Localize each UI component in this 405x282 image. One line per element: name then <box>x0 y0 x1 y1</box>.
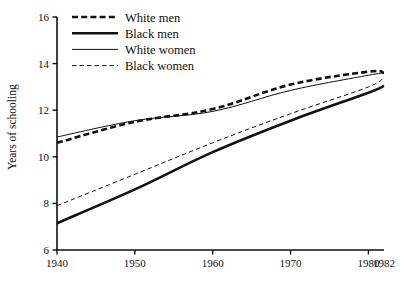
chart-container: 6810121416 194019501960197019801982 Whit… <box>0 0 405 282</box>
y-axis-tick-label: 16 <box>38 11 50 23</box>
x-axis: 194019501960197019801982 <box>46 250 395 269</box>
y-axis-tick-label: 6 <box>44 244 50 256</box>
x-axis-tick-label: 1970 <box>280 257 303 269</box>
legend-label-black-women: Black women <box>125 59 195 73</box>
legend-label-white-women: White women <box>125 43 196 57</box>
x-axis-tick-label: 1950 <box>124 257 147 269</box>
legend-label-black-men: Black men <box>125 27 180 41</box>
y-axis-title: Years of schooling <box>6 84 19 170</box>
y-axis-title-label: Years of schooling <box>6 84 19 170</box>
x-axis-tick-label: 1960 <box>202 257 225 269</box>
x-axis-tick-label: 1982 <box>373 257 395 269</box>
y-axis: 6810121416 <box>38 11 57 256</box>
y-axis-tick-label: 8 <box>44 197 50 209</box>
y-axis-tick-label: 10 <box>38 151 50 163</box>
series-line-black-women <box>57 76 384 205</box>
line-chart: 6810121416 194019501960197019801982 Whit… <box>0 0 405 282</box>
chart-legend: White menBlack menWhite womenBlack women <box>72 11 196 74</box>
x-axis-tick-label: 1940 <box>46 257 69 269</box>
y-axis-tick-label: 14 <box>38 58 50 70</box>
data-series-group <box>57 71 384 223</box>
y-axis-tick-label: 12 <box>38 104 49 116</box>
legend-label-white-men: White men <box>125 11 181 25</box>
